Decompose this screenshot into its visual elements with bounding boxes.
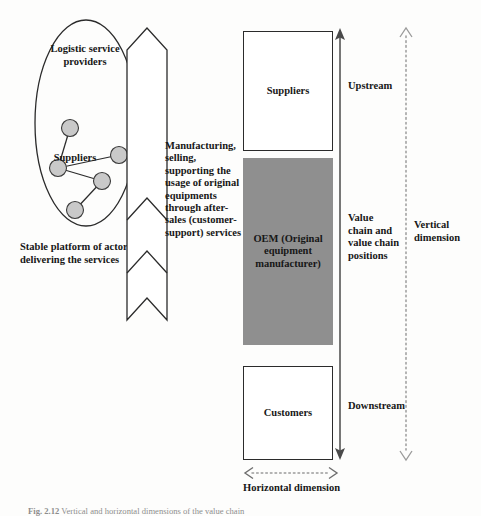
network-node	[62, 120, 79, 137]
figure-caption: Fig. 2.12 Vertical and horizontal dimens…	[28, 506, 473, 516]
arrowhead-right	[329, 468, 337, 479]
value-chain-axis-arrow	[330, 26, 350, 462]
label-upstream: Upstream	[348, 80, 410, 93]
figure-caption-number: Fig. 2.12	[28, 506, 59, 516]
network-edges	[58, 128, 119, 210]
label-horizontal-dimension: Horizontal dimension	[243, 482, 393, 493]
arrowhead-down	[400, 451, 412, 460]
network-node	[67, 202, 84, 219]
label-vertical-dimension: Vertical dimension	[414, 219, 474, 244]
value-chain-box-suppliers[interactable]: Suppliers	[243, 31, 333, 151]
figure-canvas: Logistic service providers Suppliers Sta…	[0, 0, 481, 516]
figure-caption-text: Vertical and horizontal dimensions of th…	[61, 506, 244, 516]
network-suppliers-label: Suppliers	[36, 152, 114, 165]
label-downstream: Downstream	[348, 400, 416, 413]
logistic-service-providers-label: Logistic service providers	[42, 43, 128, 68]
value-chain-box-oem[interactable]: OEM (Original equipment manufacturer)	[243, 158, 333, 345]
horizontal-dimension-arrow	[243, 466, 339, 480]
chevron-outline	[127, 28, 167, 320]
network-nodes	[50, 120, 128, 219]
value-chain-box-customers[interactable]: Customers	[243, 366, 333, 460]
manufacturing-description: Manufacturing, selling, supporting the u…	[165, 140, 247, 239]
network-node	[94, 173, 111, 190]
label-value-chain-positions: Value chain and value chain positions	[348, 212, 400, 262]
